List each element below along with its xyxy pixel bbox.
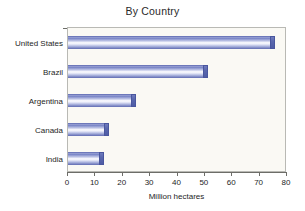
bar-end-cap	[203, 65, 208, 78]
x-axis-tick-label: 20	[117, 178, 126, 187]
y-axis-category-label: Argentina	[29, 96, 63, 105]
x-axis-tick-label: 60	[227, 178, 236, 187]
bar-row: Brazil	[68, 65, 285, 78]
plot-area: United StatesBrazilArgentinaCanadaIndia	[67, 27, 286, 172]
bar-end-cap	[131, 94, 136, 107]
x-axis-tick	[122, 172, 123, 176]
x-axis-tick	[94, 172, 95, 176]
bar-end-cap	[270, 36, 275, 49]
bar[interactable]	[68, 123, 109, 136]
bars-layer: United StatesBrazilArgentinaCanadaIndia	[68, 28, 285, 171]
x-axis-tick	[231, 172, 232, 176]
x-axis-tick-label: 10	[90, 178, 99, 187]
bar-end-cap	[99, 152, 104, 165]
bar-row: Canada	[68, 123, 285, 136]
x-axis-tick	[204, 172, 205, 176]
y-axis-category-label: India	[46, 154, 63, 163]
bar-chart: By Country United StatesBrazilArgentinaC…	[0, 0, 305, 211]
y-axis-category-label: Brazil	[43, 67, 63, 76]
bar-end-cap	[104, 123, 109, 136]
x-axis-title: Million hectares	[67, 192, 286, 201]
x-axis-tick	[259, 172, 260, 176]
x-axis-tick-label: 30	[145, 178, 154, 187]
x-axis-tick	[286, 172, 287, 176]
y-axis-category-label: Canada	[35, 125, 63, 134]
x-axis-tick-label: 0	[65, 178, 69, 187]
x-axis-tick	[177, 172, 178, 176]
x-axis-tick	[149, 172, 150, 176]
x-axis-tick	[67, 172, 68, 176]
bar[interactable]	[68, 94, 136, 107]
bar-row: India	[68, 152, 285, 165]
bar-row: Argentina	[68, 94, 285, 107]
chart-title: By Country	[0, 5, 305, 17]
y-axis-category-label: United States	[15, 38, 63, 47]
bar[interactable]	[68, 65, 208, 78]
x-axis-tick-label: 70	[254, 178, 263, 187]
bar-row: United States	[68, 36, 285, 49]
x-axis-tick-label: 40	[172, 178, 181, 187]
bar[interactable]	[68, 36, 275, 49]
x-axis-tick-label: 50	[199, 178, 208, 187]
x-axis-tick-label: 80	[282, 178, 291, 187]
